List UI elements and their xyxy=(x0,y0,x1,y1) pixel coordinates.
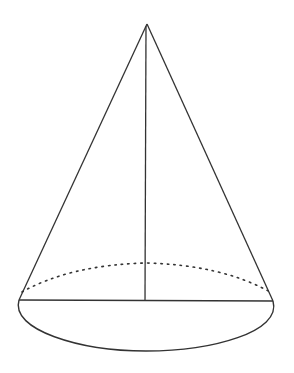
cone-figure xyxy=(0,0,294,373)
base-diameter xyxy=(19,300,273,301)
right-slant-edge xyxy=(147,24,273,301)
left-slant-edge xyxy=(19,24,147,300)
cone-diagram xyxy=(0,0,294,373)
base-ellipse-front xyxy=(18,300,274,351)
base-ellipse-back-dotted xyxy=(22,263,270,292)
height-line xyxy=(145,26,146,300)
